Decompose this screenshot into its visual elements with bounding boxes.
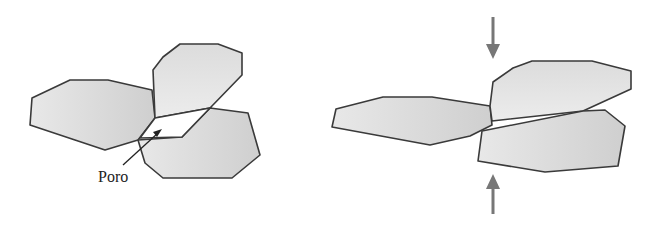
grain-left [30, 80, 155, 150]
arrow-down-icon [486, 17, 500, 59]
right-panel-after-compaction [332, 17, 631, 214]
left-panel-before-compaction: Poro [30, 44, 260, 185]
pore-label: Poro [98, 168, 128, 185]
grain-left-compacted [332, 97, 492, 145]
diagram-canvas: Poro [0, 0, 655, 229]
grain-top [153, 44, 242, 118]
arrow-up-icon [486, 174, 500, 214]
grain-top-compacted [490, 61, 631, 121]
